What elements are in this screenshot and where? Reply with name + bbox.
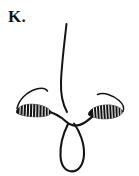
hatch-line	[32, 102, 33, 119]
central-stem-path	[61, 24, 67, 112]
figure-plate: K.	[0, 0, 139, 176]
pendant-loop-path	[60, 124, 84, 172]
botanical-line-drawing	[0, 0, 139, 176]
hatch-line	[121, 103, 122, 121]
hatch-line	[118, 102, 119, 121]
hatch-line	[115, 102, 116, 121]
hatch-line	[93, 102, 94, 121]
hatch-line	[20, 102, 21, 119]
hatch-line	[23, 102, 24, 119]
